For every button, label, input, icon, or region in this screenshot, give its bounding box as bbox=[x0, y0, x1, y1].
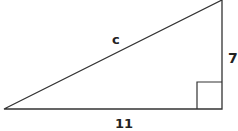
horizontal-leg-label: 11 bbox=[115, 116, 133, 131]
right-triangle bbox=[4, 0, 222, 109]
vertical-leg-label: 7 bbox=[228, 50, 238, 66]
triangle-diagram: c 7 11 bbox=[0, 0, 238, 131]
hypotenuse-label: c bbox=[112, 32, 120, 47]
right-angle-marker bbox=[197, 82, 222, 109]
